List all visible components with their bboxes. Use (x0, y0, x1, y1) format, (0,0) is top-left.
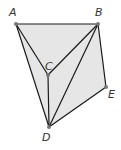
point-B (96, 22, 100, 26)
label-D: D (42, 131, 50, 144)
point-D (47, 125, 51, 129)
point-A (14, 22, 18, 26)
diagram-canvas: A B C D E (0, 0, 121, 150)
label-A: A (8, 6, 17, 19)
point-C (46, 73, 50, 77)
label-E: E (108, 88, 115, 101)
label-B: B (95, 6, 103, 19)
geometry-diagram: A B C D E (0, 0, 121, 150)
shaded-region (16, 24, 106, 127)
label-C: C (45, 60, 53, 73)
